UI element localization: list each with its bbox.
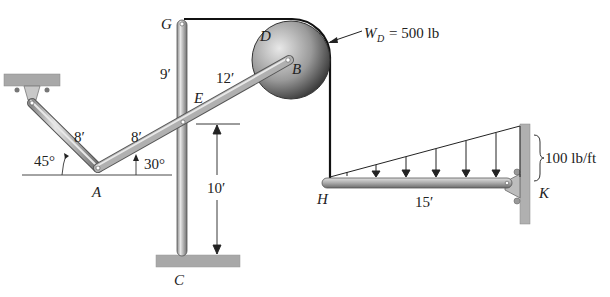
weight-subscript: D <box>376 33 385 44</box>
label-g: G <box>161 16 172 32</box>
dim-ge: 9′ <box>160 66 171 82</box>
vertical-post-gc <box>177 20 187 256</box>
ground-support-c <box>156 255 240 267</box>
dim-hk: 15′ <box>415 194 433 210</box>
label-e: E <box>193 90 203 106</box>
weight-symbol: W <box>364 25 378 41</box>
ceiling-pin-support <box>4 74 60 100</box>
pin-b <box>286 58 290 62</box>
dim-ec: 10′ <box>207 180 225 196</box>
beam-hk <box>322 178 512 188</box>
label-b: B <box>292 61 301 77</box>
dim-left-link: 8′ <box>74 129 85 145</box>
pin-a <box>96 166 100 170</box>
weight-arrow <box>328 31 362 43</box>
pin-g <box>180 22 184 26</box>
label-c: C <box>174 272 185 288</box>
pin-ceiling <box>30 101 34 105</box>
pin-e <box>181 120 185 124</box>
dim-eb: 12′ <box>216 70 234 86</box>
label-d: D <box>259 28 271 44</box>
load-brace <box>534 135 544 181</box>
weight-value: = 500 lb <box>389 25 439 41</box>
label-a: A <box>91 184 102 200</box>
pin-k <box>505 181 509 185</box>
distributed-load-label: 100 lb/ft <box>545 150 597 166</box>
frame-diagram: G D B E A C H K 8′ 8′ 12′ 9′ 10′ 15′ 45°… <box>0 0 610 297</box>
dim-ae: 8′ <box>131 129 142 145</box>
angle-45-label: 45° <box>34 153 55 169</box>
wall-support-k <box>505 124 530 224</box>
distributed-load <box>330 126 520 177</box>
angle-30-label: 30° <box>144 156 165 172</box>
label-k: K <box>538 185 550 201</box>
label-h: H <box>316 191 329 207</box>
